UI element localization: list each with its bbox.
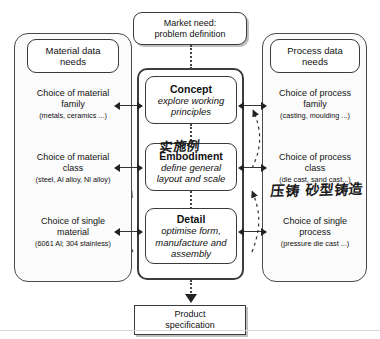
arrow-right-concept-outward-icon	[261, 102, 267, 110]
handwritten-annotation-process-class: 压铸 砂型铸造	[270, 178, 365, 200]
process-single-line1: Choice of single	[261, 216, 369, 227]
connector-embodiment-to-detail	[190, 191, 192, 209]
stage-concept-name: Concept	[170, 83, 212, 95]
stage-detail-box: Detail optimise form, manufacture and as…	[145, 208, 237, 264]
market-need-box: Market need: problem definition	[133, 12, 247, 45]
market-need-line1: Market need:	[164, 18, 217, 29]
process-header-line1: Process data	[287, 45, 342, 56]
arrow-right-detail-outward-icon	[261, 228, 267, 236]
material-header-line1: Material data	[46, 45, 101, 56]
arrow-left-detail-outward-icon	[114, 228, 120, 236]
process-header-line2: needs	[302, 56, 328, 67]
process-class-line2: class	[261, 163, 369, 174]
stage-embodiment-desc2: layout and scale	[157, 173, 226, 184]
market-need-line2: problem definition	[154, 29, 225, 40]
arrow-right-detail-inward-icon	[238, 228, 244, 236]
process-family-line1: Choice of process	[261, 88, 369, 99]
connector-market-to-concept	[190, 45, 192, 69]
process-family-examples: (casting, moulding ...)	[261, 111, 369, 120]
arrow-down-to-product-icon	[185, 294, 197, 303]
arrow-right-embodiment-inward-icon	[238, 164, 244, 172]
process-single-line2: process	[261, 227, 369, 238]
process-class-line1: Choice of process	[261, 152, 369, 163]
material-single-examples: (6061 Al; 304 stainless)	[12, 239, 134, 248]
product-spec-line1: Product	[174, 309, 205, 320]
feedback-curve-right-lower	[252, 191, 259, 252]
material-family-examples: (metals, ceramics ...)	[14, 111, 132, 120]
feedback-curve-right-upper	[252, 110, 260, 168]
material-single-line1: Choice of single	[12, 216, 134, 227]
process-single-examples: (pressure die cast ...)	[261, 239, 369, 248]
material-family-line1: Choice of material	[14, 88, 132, 99]
stage-detail-desc2: manufacture and	[155, 237, 226, 248]
handwritten-annotation-embodiment: 实施例	[159, 135, 202, 156]
arrow-right-embodiment-outward-icon	[261, 164, 267, 172]
stage-detail-name: Detail	[177, 213, 206, 225]
stage-detail-desc1: optimise form,	[161, 225, 221, 236]
process-item-single: Choice of single process (pressure die c…	[261, 216, 369, 248]
process-data-needs-header: Process data needs	[270, 39, 360, 73]
stage-concept-desc1: explore working	[158, 95, 225, 106]
arrow-left-concept-outward-icon	[114, 102, 120, 110]
arrow-right-concept-inward-icon	[238, 102, 244, 110]
material-class-line1: Choice of material	[14, 152, 132, 163]
design-process-diagram: Material data needs Choice of material f…	[0, 0, 380, 339]
arrow-left-embodiment-inward-icon	[137, 164, 143, 172]
stage-detail-desc3: assembly	[171, 248, 211, 259]
arrow-left-embodiment-outward-icon	[114, 164, 120, 172]
material-class-examples: (steel, Al alloy, Nl alloy)	[14, 175, 132, 184]
stage-concept-desc2: principles	[171, 106, 211, 117]
process-family-line2: family	[261, 99, 369, 110]
stage-concept-box: Concept explore working principles	[145, 76, 237, 124]
arrow-left-concept-inward-icon	[137, 102, 143, 110]
stage-embodiment-desc1: define general	[161, 162, 221, 173]
material-data-needs-header: Material data needs	[27, 39, 119, 73]
process-item-family: Choice of process family (casting, mould…	[261, 88, 369, 120]
arrow-left-detail-inward-icon	[137, 228, 143, 236]
material-header-line2: needs	[60, 56, 86, 67]
page-divider	[0, 330, 380, 331]
